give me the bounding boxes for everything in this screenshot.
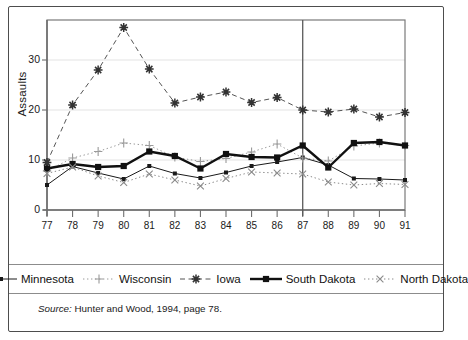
- data-point-marker: [250, 164, 254, 168]
- data-point-marker: [197, 165, 203, 171]
- data-point-marker: [192, 275, 201, 284]
- x-tick-label: 80: [113, 220, 135, 231]
- series-lines: [43, 23, 410, 189]
- data-point-marker: [273, 93, 282, 102]
- data-point-marker: [248, 169, 255, 176]
- data-point-marker: [274, 154, 280, 160]
- data-point-marker: [300, 142, 306, 148]
- legend-swatch: [363, 272, 397, 286]
- x-tick-label: 78: [62, 220, 84, 231]
- y-tick-label: 10: [16, 153, 40, 165]
- data-point-marker: [145, 65, 154, 74]
- data-point-marker: [325, 164, 331, 170]
- data-point-marker: [248, 154, 254, 160]
- data-point-marker: [146, 148, 152, 154]
- data-point-marker: [0, 277, 3, 281]
- x-tick-label: 91: [394, 220, 416, 231]
- data-point-marker: [402, 142, 408, 148]
- legend-item-north-dakota[interactable]: North Dakota: [363, 272, 468, 286]
- data-point-marker: [375, 113, 384, 122]
- data-point-marker: [351, 140, 357, 146]
- data-point-marker: [377, 276, 384, 283]
- data-point-marker: [45, 183, 49, 187]
- source-citation: Hunter and Wood, 1994, page 78.: [72, 303, 222, 314]
- source-label: Source:: [38, 303, 72, 314]
- data-point-marker: [350, 182, 357, 189]
- data-point-marker: [196, 157, 204, 166]
- data-point-marker: [95, 274, 103, 283]
- data-point-marker: [299, 153, 307, 162]
- legend-label: Wisconsin: [119, 273, 171, 285]
- data-point-marker: [119, 23, 128, 32]
- x-tick-label: 85: [241, 220, 263, 231]
- data-point-marker: [173, 172, 177, 176]
- data-point-marker: [68, 101, 77, 110]
- data-point-marker: [376, 139, 382, 145]
- x-tick-label: 77: [36, 220, 58, 231]
- x-axis-ticks: [42, 20, 405, 217]
- data-point-marker: [377, 177, 381, 181]
- legend-item-minnesota[interactable]: Minnesota: [0, 272, 74, 286]
- data-point-marker: [352, 177, 356, 181]
- legend-label: Iowa: [216, 273, 240, 285]
- x-tick-label: 83: [189, 220, 211, 231]
- legend-swatch: [249, 272, 283, 286]
- data-point-marker: [95, 164, 101, 170]
- data-point-marker: [146, 171, 153, 178]
- data-point-marker: [298, 106, 307, 115]
- data-point-marker: [349, 105, 358, 114]
- x-tick-label: 81: [138, 220, 160, 231]
- x-tick-label: 82: [164, 220, 186, 231]
- data-point-marker: [224, 171, 228, 175]
- data-point-marker: [273, 139, 281, 148]
- data-point-marker: [401, 108, 410, 117]
- data-point-marker: [198, 176, 202, 180]
- data-point-marker: [247, 98, 256, 107]
- legend-item-south-dakota[interactable]: South Dakota: [249, 272, 356, 286]
- data-point-marker: [263, 276, 269, 282]
- x-tick-label: 88: [317, 220, 339, 231]
- y-tick-label: 20: [16, 103, 40, 115]
- x-tick-label: 87: [292, 220, 314, 231]
- data-point-marker: [197, 183, 204, 190]
- source-note: Source: Hunter and Wood, 1994, page 78.: [38, 303, 222, 314]
- legend-label: Minnesota: [21, 273, 74, 285]
- data-point-marker: [223, 151, 229, 157]
- data-point-marker: [94, 66, 103, 75]
- plot-frame: [47, 20, 405, 210]
- x-tick-label: 86: [266, 220, 288, 231]
- data-point-marker: [223, 175, 230, 182]
- legend-swatch: [179, 272, 213, 286]
- legend-label: South Dakota: [286, 273, 356, 285]
- legend-swatch: [82, 272, 116, 286]
- data-point-marker: [403, 178, 407, 182]
- y-tick-label: 0: [16, 203, 40, 215]
- data-point-marker: [172, 153, 178, 159]
- data-point-marker: [69, 161, 75, 167]
- chart-legend: MinnesotaWisconsinIowaSouth DakotaNorth …: [9, 264, 443, 294]
- data-point-marker: [170, 99, 179, 108]
- legend-swatch: [0, 272, 18, 286]
- data-point-marker: [121, 163, 127, 169]
- x-tick-label: 89: [343, 220, 365, 231]
- x-tick-label: 84: [215, 220, 237, 231]
- data-point-marker: [94, 147, 102, 156]
- x-tick-label: 90: [368, 220, 390, 231]
- x-tick-label: 79: [87, 220, 109, 231]
- y-tick-label: 30: [16, 53, 40, 65]
- legend-item-wisconsin[interactable]: Wisconsin: [82, 272, 171, 286]
- legend-label: North Dakota: [400, 273, 468, 285]
- legend-item-iowa[interactable]: Iowa: [179, 272, 240, 286]
- data-point-marker: [222, 88, 231, 97]
- data-point-marker: [196, 93, 205, 102]
- data-point-marker: [171, 177, 178, 184]
- data-point-marker: [324, 108, 333, 117]
- data-point-marker: [147, 164, 151, 168]
- data-point-marker: [275, 160, 279, 164]
- data-point-marker: [120, 138, 128, 147]
